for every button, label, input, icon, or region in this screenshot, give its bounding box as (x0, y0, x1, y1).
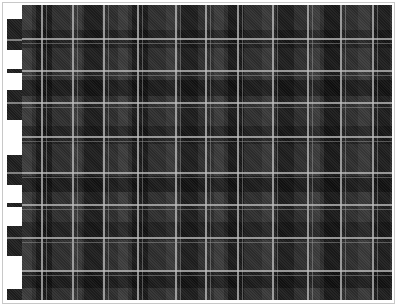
horizontal-light-stripe (22, 136, 392, 138)
fringe-tab (7, 289, 22, 300)
horizontal-light-stripe (22, 204, 392, 206)
fringe-stripe (7, 102, 22, 104)
vertical-thin-stripe (77, 5, 78, 300)
vertical-thin-stripe (277, 5, 278, 300)
horizontal-thin-stripe (22, 75, 392, 76)
horizontal-thin-stripe (22, 141, 392, 142)
vertical-light-stripe (307, 5, 309, 300)
fringe-tab (7, 155, 22, 185)
vertical-light-stripe (372, 5, 374, 300)
vertical-thin-stripe (180, 5, 181, 300)
vertical-thin-stripe (377, 5, 378, 300)
horizontal-light-stripe (22, 172, 392, 174)
horizontal-light-stripe (22, 38, 392, 40)
vertical-light-stripe (205, 5, 207, 300)
vertical-thin-stripe (210, 5, 211, 300)
vertical-light-stripe (41, 5, 43, 300)
horizontal-thin-stripe (22, 177, 392, 178)
fringe-stripe (7, 39, 22, 41)
fringe-tab (7, 90, 22, 120)
horizontal-thin-stripe (22, 43, 392, 44)
horizontal-light-stripe (22, 102, 392, 104)
horizontal-thin-stripe (22, 275, 392, 276)
fringe-tab (7, 19, 22, 50)
horizontal-light-stripe (22, 70, 392, 72)
vertical-thin-stripe (46, 5, 47, 300)
horizontal-thin-stripe (22, 107, 392, 108)
fringe-tab (7, 69, 22, 73)
fringe-stripe (7, 172, 22, 174)
vertical-light-stripe (237, 5, 239, 300)
vertical-thin-stripe (108, 5, 109, 300)
vertical-light-stripe (72, 5, 74, 300)
vertical-light-stripe (137, 5, 139, 300)
vertical-light-stripe (340, 5, 342, 300)
vertical-thin-stripe (242, 5, 243, 300)
fringe-tab (7, 203, 22, 207)
fringe-tab (7, 226, 22, 256)
vertical-light-stripe (272, 5, 274, 300)
tartan-fabric (22, 5, 392, 300)
vertical-thin-stripe (345, 5, 346, 300)
vertical-thin-stripe (142, 5, 143, 300)
horizontal-thin-stripe (22, 209, 392, 210)
vertical-light-stripe (103, 5, 105, 300)
fringe-stripe (7, 237, 22, 239)
horizontal-thin-stripe (22, 242, 392, 243)
horizontal-light-stripe (22, 270, 392, 272)
horizontal-light-stripe (22, 237, 392, 239)
vertical-light-stripe (175, 5, 177, 300)
vertical-thin-stripe (312, 5, 313, 300)
